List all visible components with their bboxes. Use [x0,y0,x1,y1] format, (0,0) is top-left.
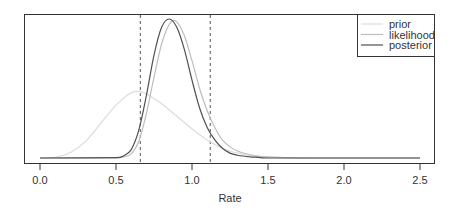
x-tick-label: 1.5 [260,174,275,186]
x-axis: 0.00.51.01.52.02.5 [32,164,427,186]
legend: priorlikelihoodposterior [358,15,435,57]
series-line-prior [40,91,420,158]
x-tick-label: 2.0 [336,174,351,186]
x-tick-label: 0.5 [108,174,123,186]
x-axis-label: Rate [218,192,241,204]
legend-label-posterior: posterior [389,39,432,51]
x-tick-label: 0.0 [32,174,47,186]
x-tick-label: 1.0 [184,174,199,186]
density-chart: 0.00.51.01.52.02.5 Rate priorlikelihoodp… [0,0,455,211]
x-tick-label: 2.5 [412,174,427,186]
